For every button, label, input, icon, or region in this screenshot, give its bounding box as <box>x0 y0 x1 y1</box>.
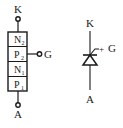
svg-text:1: 1 <box>22 70 25 76</box>
terminal-a-node <box>16 103 20 107</box>
terminal-k-node <box>16 17 20 21</box>
terminal-a-label: A <box>14 108 22 120</box>
svg-text:1: 1 <box>21 85 24 91</box>
thyristor-diagram: K N 2 P 2 N 1 P 1 G A K <box>0 0 123 128</box>
svg-text:2: 2 <box>21 55 24 61</box>
symbol-diode-triangle <box>83 55 97 65</box>
symbol-g-label: G <box>108 42 116 54</box>
svg-text:N: N <box>14 34 21 45</box>
svg-text:P: P <box>14 49 20 60</box>
svg-text:P: P <box>14 79 20 90</box>
symbol-k-label: K <box>86 17 94 29</box>
layer-structure: K N 2 P 2 N 1 P 1 G A <box>8 3 52 120</box>
symbol-gate-sign: + <box>99 44 104 54</box>
terminal-k-label: K <box>14 3 22 15</box>
svg-text:2: 2 <box>22 40 25 46</box>
thyristor-symbol: K + G A <box>83 17 116 105</box>
terminal-g-node <box>37 52 41 56</box>
terminal-g-label: G <box>44 48 52 60</box>
svg-text:N: N <box>14 64 21 75</box>
symbol-gate-lead <box>90 49 99 55</box>
symbol-a-label: A <box>86 93 94 105</box>
